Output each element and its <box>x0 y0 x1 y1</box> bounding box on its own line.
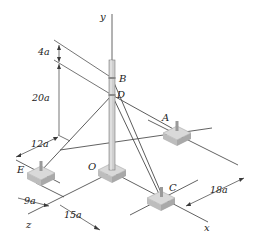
dim-label-20a: 20a <box>32 93 50 103</box>
point-d-label: D <box>117 90 125 100</box>
d-extension-line <box>54 60 112 95</box>
mast <box>109 14 116 170</box>
dimension-arrowheads <box>16 45 244 230</box>
anchor-block-a <box>163 121 191 146</box>
b-extension-line <box>54 40 112 78</box>
point-b-label: B <box>119 74 126 84</box>
point-e-label: E <box>17 165 24 175</box>
dim-label-15a: 15a <box>64 210 82 220</box>
point-a-label: A <box>162 113 169 123</box>
cable-de <box>41 95 112 171</box>
dim-label-9a: 9a <box>24 196 36 206</box>
point-c-label: C <box>169 183 177 193</box>
mast-diagram-svg <box>0 0 260 243</box>
y-axis-label: y <box>100 12 106 22</box>
a-grid-line-x <box>148 120 238 165</box>
origin-label: O <box>88 162 96 172</box>
dim-label-18a: 18a <box>210 185 228 195</box>
dim-label-12a: 12a <box>31 139 49 149</box>
diagram-canvas: y B D O A C E x z 4a 20a 12a 9a 15a 18a <box>0 0 260 243</box>
dim-12a-ext <box>58 135 70 141</box>
dim-label-4a: 4a <box>38 47 50 57</box>
x-axis-label: x <box>204 223 210 233</box>
anchor-block-e <box>27 161 55 186</box>
z-axis-label: z <box>26 220 31 230</box>
cable-dc <box>112 95 160 196</box>
